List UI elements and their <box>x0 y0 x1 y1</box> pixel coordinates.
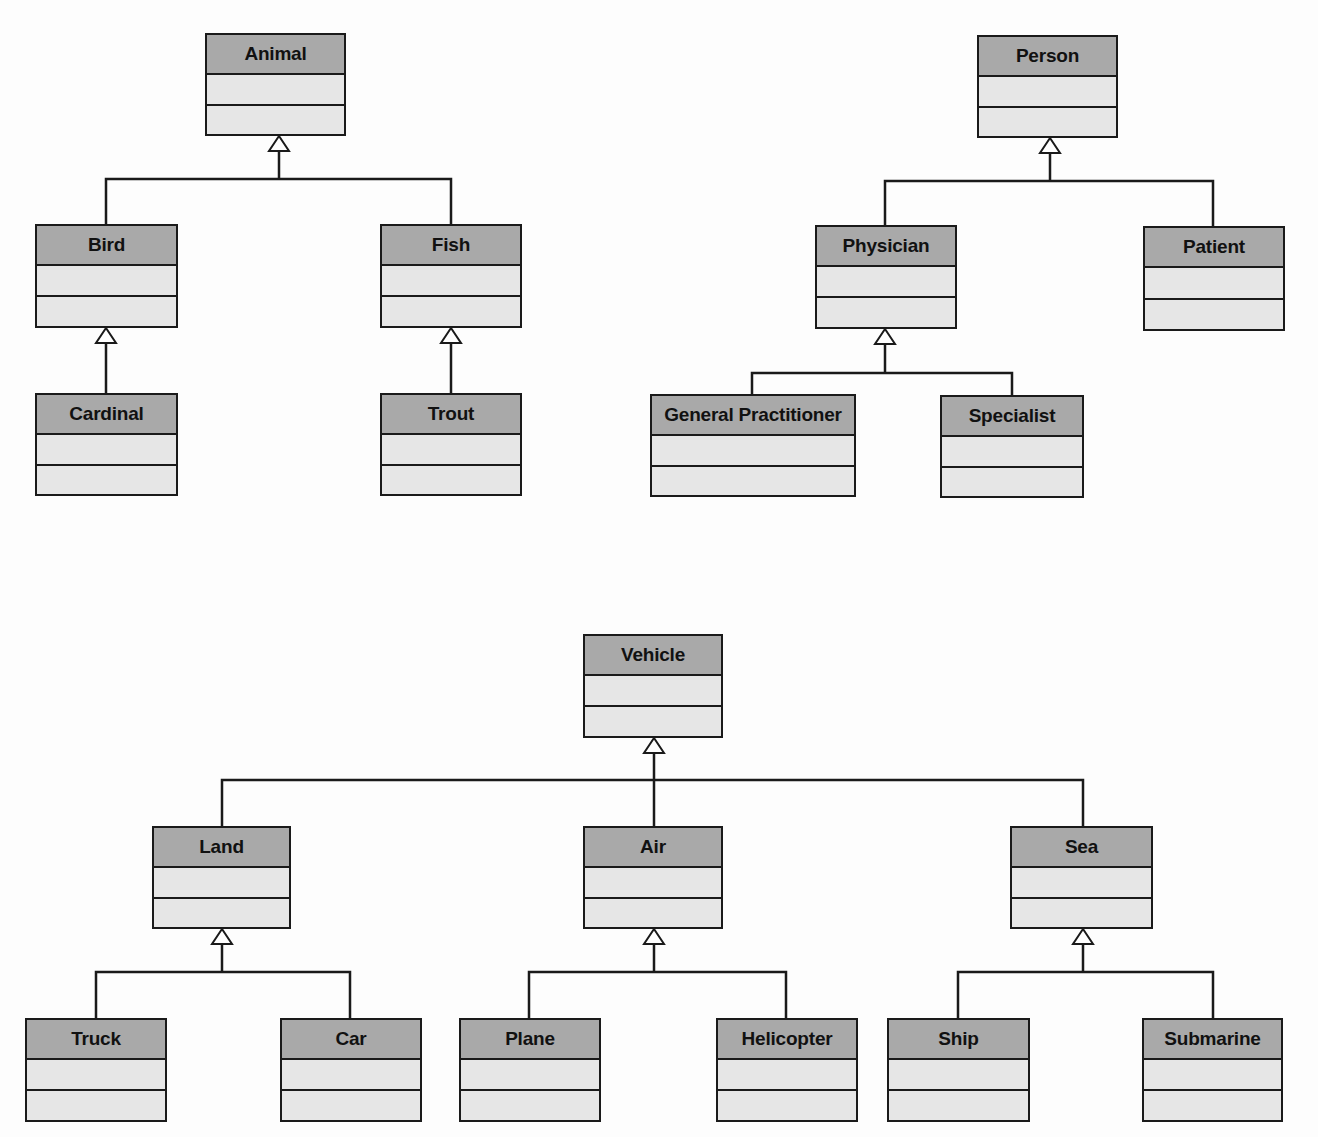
attributes-compartment <box>1012 868 1151 899</box>
operations-compartment <box>585 899 721 928</box>
class-name: Submarine <box>1144 1020 1281 1060</box>
attributes-compartment <box>585 868 721 899</box>
generalization-arrow-physician <box>875 329 895 344</box>
operations-compartment <box>1145 300 1283 330</box>
class-helicopter[interactable]: Helicopter <box>716 1018 858 1122</box>
attributes-compartment <box>461 1060 599 1091</box>
attributes-compartment <box>154 868 289 899</box>
operations-compartment <box>461 1091 599 1120</box>
class-trout[interactable]: Trout <box>380 393 522 496</box>
generalization-arrow-land <box>212 929 232 944</box>
class-name: Physician <box>817 227 955 267</box>
class-cardinal[interactable]: Cardinal <box>35 393 178 496</box>
attributes-compartment <box>817 267 955 298</box>
connector-sea-ship-submarine <box>958 972 1213 1018</box>
class-patient[interactable]: Patient <box>1143 226 1285 331</box>
attributes-compartment <box>652 436 854 467</box>
generalization-arrow-bird <box>96 328 116 343</box>
uml-diagram-canvas: Animal Bird Fish Cardinal Trout Person P… <box>0 0 1318 1137</box>
class-sea[interactable]: Sea <box>1010 826 1153 929</box>
generalization-arrow-air <box>644 929 664 944</box>
operations-compartment <box>942 468 1082 497</box>
class-name: Plane <box>461 1020 599 1060</box>
class-name: Person <box>979 37 1116 77</box>
connector-air-plane-helicopter <box>529 972 786 1018</box>
class-land[interactable]: Land <box>152 826 291 929</box>
operations-compartment <box>718 1091 856 1120</box>
class-name: Helicopter <box>718 1020 856 1060</box>
connector-land-truck-car <box>96 972 350 1018</box>
class-submarine[interactable]: Submarine <box>1142 1018 1283 1122</box>
attributes-compartment <box>718 1060 856 1091</box>
operations-compartment <box>652 467 854 496</box>
class-name: Vehicle <box>585 636 721 676</box>
attributes-compartment <box>1144 1060 1281 1091</box>
class-specialist[interactable]: Specialist <box>940 395 1084 498</box>
operations-compartment <box>282 1091 420 1120</box>
connector-animal-bird-fish <box>106 179 451 224</box>
class-name: Trout <box>382 395 520 435</box>
class-name: Specialist <box>942 397 1082 437</box>
operations-compartment <box>207 106 344 135</box>
operations-compartment <box>1144 1091 1281 1120</box>
class-fish[interactable]: Fish <box>380 224 522 328</box>
class-physician[interactable]: Physician <box>815 225 957 329</box>
class-truck[interactable]: Truck <box>25 1018 167 1122</box>
attributes-compartment <box>207 75 344 106</box>
generalization-arrow-person <box>1040 138 1060 153</box>
class-name: Bird <box>37 226 176 266</box>
class-name: Truck <box>27 1020 165 1060</box>
generalization-connectors <box>0 0 1318 1137</box>
attributes-compartment <box>37 435 176 466</box>
class-name: Ship <box>889 1020 1028 1060</box>
attributes-compartment <box>979 77 1116 108</box>
class-person[interactable]: Person <box>977 35 1118 138</box>
generalization-arrow-animal <box>269 136 289 151</box>
class-air[interactable]: Air <box>583 826 723 929</box>
attributes-compartment <box>37 266 176 297</box>
operations-compartment <box>37 297 176 326</box>
class-general-practitioner[interactable]: General Practitioner <box>650 394 856 497</box>
operations-compartment <box>382 297 520 326</box>
class-name: Car <box>282 1020 420 1060</box>
operations-compartment <box>889 1091 1028 1120</box>
attributes-compartment <box>1145 268 1283 300</box>
operations-compartment <box>585 707 721 736</box>
class-bird[interactable]: Bird <box>35 224 178 328</box>
class-name: Fish <box>382 226 520 266</box>
class-ship[interactable]: Ship <box>887 1018 1030 1122</box>
attributes-compartment <box>282 1060 420 1091</box>
class-vehicle[interactable]: Vehicle <box>583 634 723 738</box>
attributes-compartment <box>382 266 520 297</box>
class-name: General Practitioner <box>652 396 854 436</box>
attributes-compartment <box>585 676 721 707</box>
operations-compartment <box>154 899 289 928</box>
attributes-compartment <box>942 437 1082 468</box>
generalization-arrow-sea <box>1073 929 1093 944</box>
operations-compartment <box>1012 899 1151 928</box>
class-name: Sea <box>1012 828 1151 868</box>
class-name: Animal <box>207 35 344 75</box>
class-name: Land <box>154 828 289 868</box>
operations-compartment <box>979 108 1116 137</box>
class-name: Air <box>585 828 721 868</box>
class-car[interactable]: Car <box>280 1018 422 1122</box>
attributes-compartment <box>27 1060 165 1091</box>
class-plane[interactable]: Plane <box>459 1018 601 1122</box>
connector-physician-gp-specialist <box>752 373 1012 395</box>
operations-compartment <box>382 466 520 495</box>
connector-vehicle-land-air-sea <box>222 780 1083 826</box>
class-name: Cardinal <box>37 395 176 435</box>
operations-compartment <box>817 298 955 327</box>
attributes-compartment <box>382 435 520 466</box>
attributes-compartment <box>889 1060 1028 1091</box>
class-animal[interactable]: Animal <box>205 33 346 136</box>
generalization-arrow-vehicle <box>644 738 664 753</box>
generalization-arrow-fish <box>441 328 461 343</box>
operations-compartment <box>27 1091 165 1120</box>
connector-person-physician-patient <box>885 181 1213 226</box>
operations-compartment <box>37 466 176 495</box>
class-name: Patient <box>1145 228 1283 268</box>
